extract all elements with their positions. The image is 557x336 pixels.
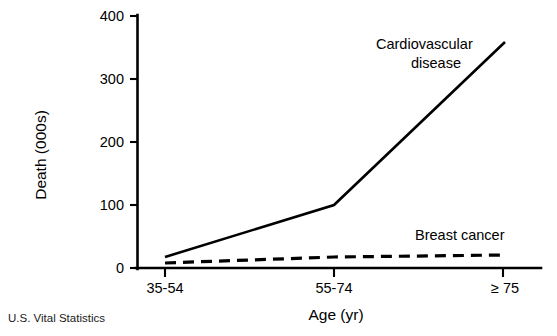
y-axis-title: Death (000s) <box>32 110 49 200</box>
x-axis-title: Age (yr) <box>308 306 363 323</box>
y-tick-label-200: 200 <box>100 134 124 150</box>
y-tick-marks <box>130 16 137 268</box>
y-tick-label-0: 0 <box>116 260 124 276</box>
x-tick-label-35-54: 35-54 <box>146 280 183 296</box>
line-chart: 400 300 200 100 0 35-54 55-74 ≥ 75 Death… <box>0 0 557 336</box>
y-tick-label-100: 100 <box>100 197 124 213</box>
y-tick-label-400: 400 <box>100 8 124 24</box>
figure-container: 400 300 200 100 0 35-54 55-74 ≥ 75 Death… <box>0 0 557 336</box>
y-tick-label-300: 300 <box>100 71 124 87</box>
source-note: U.S. Vital Statistics <box>8 312 105 324</box>
series-cardiovascular-disease <box>165 42 505 257</box>
x-tick-label-75-plus: ≥ 75 <box>491 280 519 296</box>
label-cardiovascular-line1: Cardiovascular <box>376 36 473 52</box>
series-breast-cancer <box>165 255 505 263</box>
annotation-cardiovascular-disease: Cardiovascular disease <box>376 36 473 71</box>
annotation-breast-cancer: Breast cancer <box>415 227 505 243</box>
x-tick-labels: 35-54 55-74 ≥ 75 <box>146 280 519 296</box>
label-breast-cancer: Breast cancer <box>415 227 505 243</box>
label-cardiovascular-line2: disease <box>411 55 461 71</box>
x-tick-label-55-74: 55-74 <box>315 280 352 296</box>
x-tick-marks <box>165 268 503 277</box>
y-tick-labels: 400 300 200 100 0 <box>100 8 124 276</box>
